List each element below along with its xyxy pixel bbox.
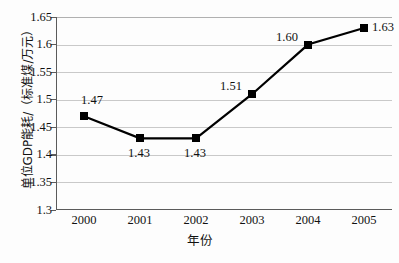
data-marker <box>248 90 256 98</box>
x-tick-label: 2001 <box>110 214 170 227</box>
data-marker <box>80 112 88 120</box>
data-point-label: 1.47 <box>81 94 103 107</box>
data-marker <box>360 24 368 32</box>
data-point-label: 1.63 <box>372 21 394 34</box>
x-tick-label: 2004 <box>278 214 338 227</box>
data-point-label: 1.60 <box>276 31 298 44</box>
x-tick-label: 2002 <box>166 214 226 227</box>
data-point-label: 1.43 <box>184 147 206 160</box>
x-axis-title: 年份 <box>0 234 399 247</box>
data-marker <box>136 134 144 142</box>
chart-container: 单位GDP能耗/（标准煤/万元） 1.31.351.41.451.51.551.… <box>0 0 399 263</box>
x-tick-label: 2000 <box>54 214 114 227</box>
data-marker <box>304 41 312 49</box>
x-tick-label: 2005 <box>334 214 394 227</box>
data-point-label: 1.43 <box>128 147 150 160</box>
x-tick-label: 2003 <box>222 214 282 227</box>
data-point-label: 1.51 <box>220 80 242 93</box>
data-marker <box>192 134 200 142</box>
